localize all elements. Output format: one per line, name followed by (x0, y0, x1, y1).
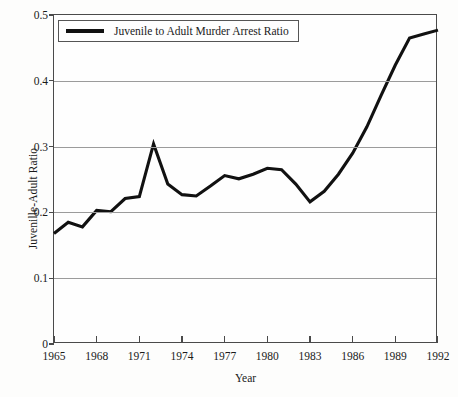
x-tick-label: 1977 (213, 350, 236, 362)
x-tick-mark (267, 336, 268, 343)
x-tick-mark (437, 336, 438, 343)
y-tick-mark (49, 278, 54, 279)
y-tick-mark (49, 14, 54, 15)
legend: Juvenile to Adult Murder Arrest Ratio (58, 20, 299, 42)
x-tick-label: 1986 (341, 350, 364, 362)
x-tick-label: 1971 (128, 350, 151, 362)
x-tick-label: 1992 (427, 350, 450, 362)
x-tick-mark (224, 336, 225, 343)
y-gridline (54, 81, 436, 82)
y-tick-label: 0 (42, 338, 48, 350)
chart-figure: Juvenille-Adult Ratio Juvenile to Adult … (0, 0, 458, 397)
y-axis-title: Juvenille-Adult Ratio (22, 0, 44, 397)
x-tick-label: 1983 (299, 350, 322, 362)
x-tick-label: 1968 (85, 350, 108, 362)
x-tick-mark (309, 336, 310, 343)
y-tick-label: 0.2 (34, 206, 48, 218)
y-tick-label: 0.5 (34, 9, 48, 21)
y-gridline (54, 278, 436, 279)
plot-area: Juvenile to Adult Murder Arrest Ratio 00… (53, 14, 437, 343)
y-tick-mark (49, 212, 54, 213)
y-tick-label: 0.4 (34, 75, 48, 87)
legend-swatch-ratio (66, 29, 104, 32)
x-tick-mark (395, 336, 396, 343)
y-tick-mark (49, 80, 54, 81)
x-tick-mark (96, 336, 97, 343)
x-axis-title: Year (53, 372, 438, 384)
x-tick-mark (352, 336, 353, 343)
x-tick-mark (181, 336, 182, 343)
x-tick-label: 1974 (171, 350, 194, 362)
y-gridline (54, 147, 436, 148)
y-tick-label: 0.3 (34, 141, 48, 153)
y-tick-label: 0.1 (34, 272, 48, 284)
x-tick-label: 1965 (43, 350, 66, 362)
legend-label-ratio: Juvenile to Adult Murder Arrest Ratio (114, 25, 289, 37)
series-layer (54, 15, 438, 344)
x-tick-mark (139, 336, 140, 343)
x-tick-label: 1980 (256, 350, 279, 362)
x-tick-mark (54, 336, 55, 343)
y-tick-mark (49, 343, 54, 344)
x-tick-label: 1989 (384, 350, 407, 362)
y-gridline (54, 212, 436, 213)
y-tick-mark (49, 146, 54, 147)
series-line (54, 30, 438, 233)
